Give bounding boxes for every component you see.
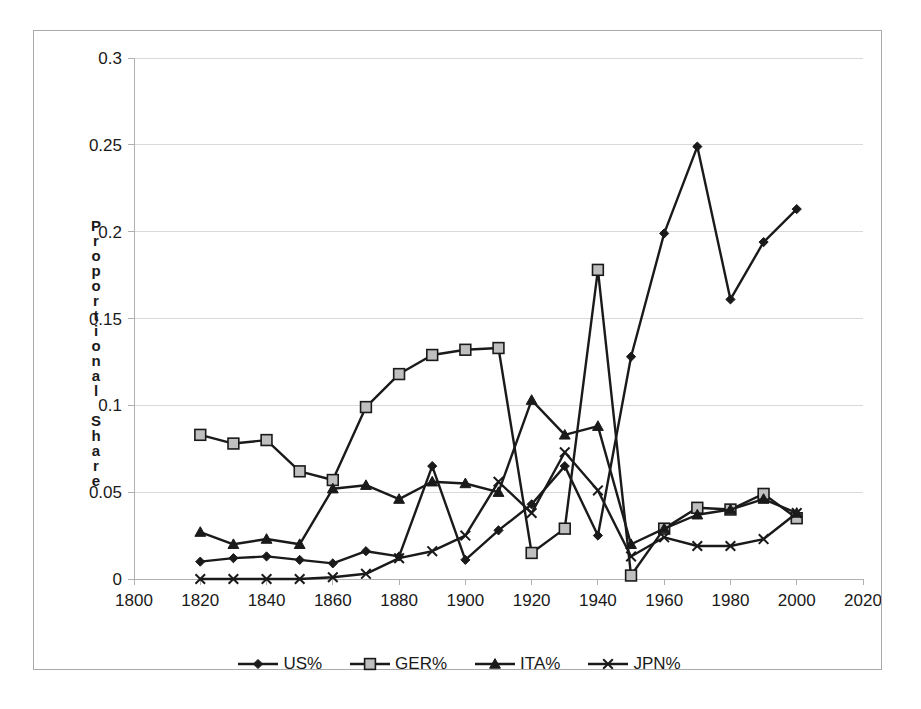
- data-point-square-marker: [593, 264, 604, 275]
- x-tick-label: 1800: [115, 591, 153, 610]
- data-point-cross-marker: [626, 552, 636, 562]
- data-point-diamond-marker: [428, 462, 437, 471]
- data-point-square-marker: [493, 343, 504, 354]
- data-point-diamond-marker: [196, 557, 205, 566]
- x-tick-label: 2020: [844, 591, 881, 610]
- data-point-square-marker: [365, 659, 376, 670]
- data-point-cross-marker: [527, 508, 537, 518]
- series-jpn: [195, 447, 801, 583]
- data-series-group: [195, 142, 802, 584]
- data-point-square-marker: [195, 429, 206, 440]
- x-tick-label: 1900: [446, 591, 484, 610]
- x-tick-label: 1980: [712, 591, 750, 610]
- data-point-diamond-marker: [262, 552, 271, 561]
- data-point-diamond-marker: [328, 559, 337, 568]
- data-point-square-marker: [526, 548, 537, 559]
- y-axis-title: Proportional Share: [86, 219, 106, 489]
- data-point-diamond-marker: [254, 659, 263, 668]
- chart-frame: 00.050.10.150.20.250.3 18001820184018601…: [33, 30, 882, 670]
- data-point-square-marker: [261, 435, 272, 446]
- data-point-diamond-marker: [229, 554, 238, 563]
- x-tick-label: 1820: [181, 591, 219, 610]
- data-point-square-marker: [361, 402, 372, 413]
- x-tick-label: 1920: [513, 591, 551, 610]
- series-line: [200, 400, 796, 544]
- x-tick-label: 2000: [778, 591, 816, 610]
- y-tick-label: 0.25: [89, 136, 122, 155]
- data-point-triangle-marker: [195, 527, 206, 537]
- data-point-diamond-marker: [593, 531, 602, 540]
- legend-entry-ita[interactable]: ITA%: [473, 654, 560, 674]
- x-tick-label: 1960: [645, 591, 683, 610]
- chart-legend: US%GER%ITA%JPN%: [34, 654, 883, 674]
- chart-plot-area: 00.050.10.150.20.250.3 18001820184018601…: [34, 31, 881, 669]
- data-point-square-marker: [394, 369, 405, 380]
- x-tick-label: 1840: [248, 591, 286, 610]
- data-point-square-marker: [427, 350, 438, 361]
- gridlines: [134, 58, 863, 579]
- data-point-diamond-marker: [693, 142, 702, 151]
- x-tick-label: 1940: [579, 591, 617, 610]
- legend-marker-cross-icon: [586, 656, 630, 672]
- legend-entry-ger[interactable]: GER%: [348, 654, 447, 674]
- legend-entry-us[interactable]: US%: [236, 654, 322, 674]
- data-point-diamond-marker: [361, 547, 370, 556]
- data-point-cross-marker: [461, 531, 471, 541]
- legend-marker-diamond-icon: [236, 656, 280, 672]
- data-point-square-marker: [559, 523, 570, 534]
- data-point-triangle-marker: [593, 421, 604, 431]
- legend-marker-square-icon: [348, 656, 392, 672]
- data-point-triangle-marker: [526, 395, 537, 405]
- data-point-square-marker: [294, 466, 305, 477]
- data-point-diamond-marker: [660, 229, 669, 238]
- y-axis-title-letter: e: [86, 474, 106, 489]
- legend-label: ITA%: [520, 654, 560, 674]
- y-tick-label: 0.3: [98, 49, 122, 68]
- data-point-square-marker: [460, 344, 471, 355]
- legend-label: GER%: [395, 654, 447, 674]
- data-point-cross-marker: [560, 447, 570, 457]
- data-point-cross-marker: [593, 486, 603, 496]
- legend-label: JPN%: [633, 654, 680, 674]
- y-tick-label: 0: [113, 570, 122, 589]
- data-point-square-marker: [626, 570, 637, 581]
- legend-entry-jpn[interactable]: JPN%: [586, 654, 680, 674]
- x-tick-label: 1860: [314, 591, 352, 610]
- data-point-square-marker: [228, 438, 239, 449]
- legend-marker-triangle-icon: [473, 656, 517, 672]
- data-point-diamond-marker: [295, 555, 304, 564]
- legend-label: US%: [283, 654, 322, 674]
- data-point-diamond-marker: [626, 352, 635, 361]
- x-tick-label: 1880: [380, 591, 418, 610]
